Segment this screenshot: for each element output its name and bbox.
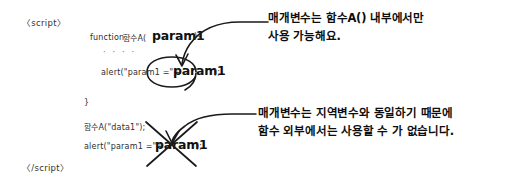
- code-alert-outer-suffix: );: [196, 142, 202, 151]
- ink-annotation-layer: [0, 0, 509, 185]
- script-close-tag: 〈/script〉: [22, 161, 69, 173]
- code-ellipsis: · · · ·: [103, 48, 136, 57]
- figure-canvas: 〈script〉 function 함수A( param1 ){ · · · ·…: [0, 0, 509, 185]
- code-function-open-brace: ){: [194, 32, 203, 41]
- code-alert-inner-suffix: );: [214, 68, 220, 77]
- annotation-top-note: 매개변수는 함수A() 내부에서만 사용 가능해요.: [268, 9, 424, 45]
- code-alert-outer-prefix: alert("param1 ="+: [84, 142, 163, 151]
- code-alert-inner-prefix: alert("param1 ="+: [101, 68, 180, 77]
- code-function-name: 함수A(: [123, 32, 146, 43]
- annotation-bottom-note: 매개변수는 지역변수와 동일하기 때문에 함수 외부에서는 사용할 수 가 없습…: [258, 104, 454, 140]
- code-close-brace: }: [84, 98, 89, 107]
- code-function-keyword: function: [90, 33, 127, 42]
- code-function-call: 함수A("data1");: [84, 121, 145, 132]
- script-open-tag: 〈script〉: [22, 16, 66, 28]
